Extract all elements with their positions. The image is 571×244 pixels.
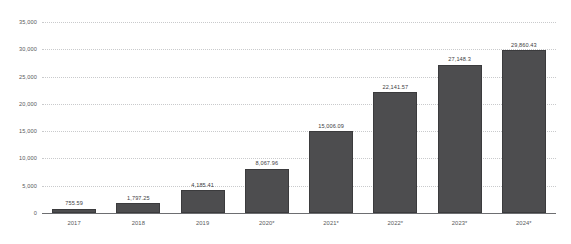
bar-value-label: 755.59	[65, 200, 83, 206]
bar-value-label: 29,860.43	[511, 42, 537, 48]
y-tick-label: 5,000	[22, 183, 37, 189]
bar-value-label: 4,185.41	[191, 182, 214, 188]
bar[interactable]	[502, 50, 546, 213]
bar[interactable]	[373, 92, 417, 213]
x-tick-label: 2020*	[259, 220, 275, 226]
x-tick-label: 2018	[132, 220, 145, 226]
x-tick-label: 2024*	[516, 220, 532, 226]
y-tick-label: 25,000	[19, 74, 37, 80]
bar[interactable]	[438, 65, 482, 213]
bar-slot: 755.59	[42, 0, 106, 213]
bar-slot: 1,797.25	[106, 0, 170, 213]
y-tick-label: 10,000	[19, 155, 37, 161]
bar[interactable]	[116, 203, 160, 213]
y-tick-label: 30,000	[19, 46, 37, 52]
bar-value-label: 27,148.3	[448, 56, 471, 62]
x-tick-label: 2023*	[452, 220, 468, 226]
bar-slot: 27,148.3	[428, 0, 492, 213]
bar-slot: 29,860.43	[492, 0, 556, 213]
x-tick-label: 2019	[196, 220, 209, 226]
bar-slot: 4,185.41	[171, 0, 235, 213]
x-tick-label: 2021*	[323, 220, 339, 226]
bar-value-label: 22,141.57	[382, 84, 408, 90]
y-tick-label: 35,000	[19, 19, 37, 25]
y-tick-label: 0	[34, 210, 37, 216]
x-axis: 2017201820192020*2021*2022*2023*2024*	[42, 216, 556, 236]
x-axis-baseline	[42, 213, 556, 214]
bar-chart: 05,00010,00015,00020,00025,00030,00035,0…	[0, 0, 571, 244]
bar-value-label: 1,797.25	[127, 195, 150, 201]
bar[interactable]	[245, 169, 289, 213]
y-tick-label: 20,000	[19, 101, 37, 107]
bar-slot: 8,067.96	[235, 0, 299, 213]
bar[interactable]	[309, 131, 353, 213]
bar-slot: 22,141.57	[363, 0, 427, 213]
bar[interactable]	[181, 190, 225, 213]
bar-slot: 15,006.09	[299, 0, 363, 213]
x-tick-label: 2017	[67, 220, 80, 226]
x-tick-label: 2022*	[388, 220, 404, 226]
y-tick-label: 15,000	[19, 128, 37, 134]
plot-area: 755.591,797.254,185.418,067.9615,006.092…	[42, 0, 556, 213]
bar[interactable]	[52, 209, 96, 213]
y-axis: 05,00010,00015,00020,00025,00030,00035,0…	[0, 0, 40, 244]
bar-value-label: 8,067.96	[256, 160, 279, 166]
bar-value-label: 15,006.09	[318, 123, 344, 129]
